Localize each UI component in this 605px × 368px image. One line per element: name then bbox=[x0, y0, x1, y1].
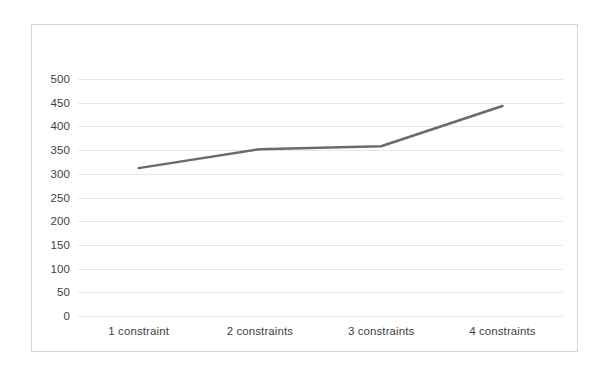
y-axis-tick-label: 350 bbox=[51, 144, 71, 156]
y-axis-tick-label: 200 bbox=[51, 215, 71, 227]
y-axis-tick-label: 300 bbox=[51, 168, 71, 180]
series-group bbox=[139, 106, 503, 168]
gridline bbox=[78, 316, 563, 317]
y-axis-tick-label: 50 bbox=[57, 286, 70, 298]
y-axis-tick-label: 250 bbox=[51, 192, 71, 204]
plot-area: 050100150200250300350400450500 1 constra… bbox=[78, 79, 563, 316]
y-axis-tick-label: 400 bbox=[51, 120, 71, 132]
x-axis-tick-label: 3 constraints bbox=[348, 325, 415, 337]
chart-frame: 050100150200250300350400450500 1 constra… bbox=[31, 24, 578, 352]
y-axis-tick-label: 100 bbox=[51, 263, 71, 275]
series-line bbox=[139, 106, 503, 168]
y-axis-tick-label: 0 bbox=[64, 310, 71, 322]
x-axis-tick-label: 4 constraints bbox=[469, 325, 536, 337]
x-axis-tick-label: 1 constraint bbox=[108, 325, 169, 337]
y-axis-tick-label: 150 bbox=[51, 239, 71, 251]
x-axis-tick-label: 2 constraints bbox=[227, 325, 294, 337]
y-axis-tick-label: 500 bbox=[51, 73, 71, 85]
series-line-chart bbox=[78, 79, 563, 316]
y-axis-tick-label: 450 bbox=[51, 97, 71, 109]
